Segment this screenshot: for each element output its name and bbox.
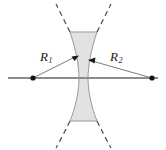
center-of-curvature-dot-right <box>149 75 154 80</box>
radius-label-r2-subscript: 2 <box>118 56 122 65</box>
radius-label-r1-symbol: R <box>40 49 48 64</box>
radius-label-r1: R1 <box>40 50 52 63</box>
lens-diagram-canvas <box>0 0 166 150</box>
radius-label-r2: R2 <box>110 50 122 63</box>
dashed-arc-right-lower <box>97 121 111 148</box>
dashed-arc-left-lower <box>56 121 70 148</box>
radius-leader-line-r2 <box>92 61 152 78</box>
optics-lens-diagram: R1 R2 <box>0 0 166 150</box>
dashed-arc-left-upper <box>56 4 70 32</box>
radius-label-r2-symbol: R <box>110 49 118 64</box>
center-of-curvature-dot-left <box>30 75 35 80</box>
dashed-arc-right-upper <box>97 4 111 32</box>
radius-label-r1-subscript: 1 <box>48 56 52 65</box>
